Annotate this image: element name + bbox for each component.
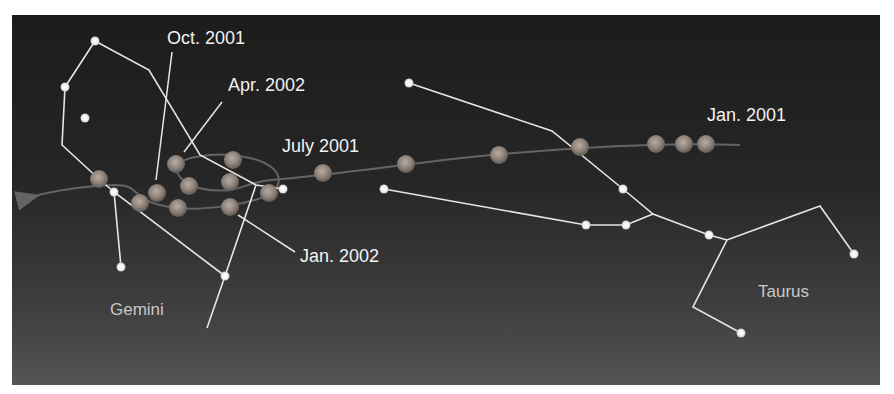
label-jan-2002: Jan. 2002 (300, 246, 379, 267)
label-gemini: Gemini (110, 300, 164, 320)
planet-positions (90, 135, 715, 217)
diagram-graphics (0, 0, 894, 394)
label-jan-2001: Jan. 2001 (707, 105, 786, 126)
label-apr-2002: Apr. 2002 (228, 75, 305, 96)
label-july-2001: July 2001 (282, 136, 359, 157)
label-oct-2001: Oct. 2001 (167, 28, 245, 49)
label-taurus: Taurus (758, 282, 809, 302)
